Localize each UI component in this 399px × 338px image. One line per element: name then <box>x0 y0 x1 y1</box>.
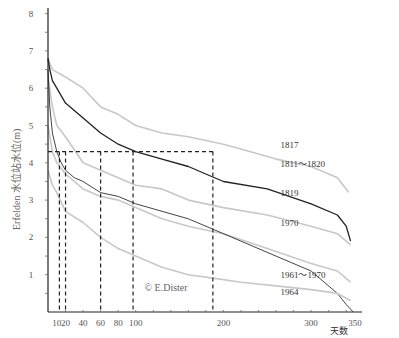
y-tick-label: 7 <box>29 46 34 56</box>
flow-duration-chart: 123456781020406080100200300350 18171811～… <box>0 0 399 338</box>
series-line-6 <box>48 170 351 300</box>
series-label: 1817 <box>280 140 299 150</box>
y-tick-label: 6 <box>29 83 34 93</box>
x-tick-label: 350 <box>348 318 362 328</box>
series-label: 1811～1820 <box>280 159 325 169</box>
x-tick-label: 80 <box>114 318 124 328</box>
copyright-label: © E.Dister <box>144 282 188 293</box>
series-label: 1819 <box>280 188 299 198</box>
x-tick-label: 60 <box>96 318 106 328</box>
x-tick-label: 100 <box>129 318 143 328</box>
x-tick-label: 300 <box>304 318 318 328</box>
series-label: 1964 <box>280 287 299 297</box>
x-tick-label: 200 <box>217 318 231 328</box>
y-tick-label: 1 <box>29 270 34 280</box>
x-tick-label: 40 <box>79 318 89 328</box>
x-tick-label: 20 <box>61 318 71 328</box>
series-label: 1961～1970 <box>280 270 326 280</box>
series-line-4 <box>48 126 351 283</box>
x-axis-label: 天数 <box>330 325 348 336</box>
series-label: 1970 <box>280 218 299 228</box>
series-line-2 <box>48 58 351 241</box>
y-tick-label: 3 <box>29 195 34 205</box>
annotations: 18171811～1820181919701961～19701964© E.Di… <box>144 140 325 297</box>
reference-lines <box>48 152 213 312</box>
y-tick-label: 8 <box>29 9 34 19</box>
series-line-1 <box>48 58 349 192</box>
y-tick-label: 2 <box>29 232 34 242</box>
y-axis-label: Erfelden 水位站水位(m) <box>10 129 23 230</box>
y-tick-label: 5 <box>29 121 34 131</box>
y-tick-label: 4 <box>29 158 34 168</box>
